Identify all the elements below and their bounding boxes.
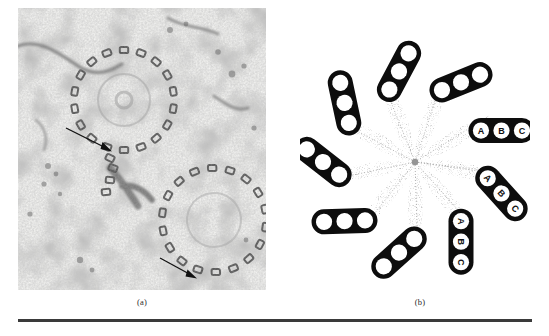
micrograph-grain-top <box>18 8 266 290</box>
triplet-top-left <box>372 40 425 106</box>
diagram-svg: A B C A B C A B C <box>300 40 530 290</box>
caption-panel-b: (b) <box>390 297 450 307</box>
tubule-label-a: A <box>478 126 485 136</box>
tubule-label-b: B <box>498 126 505 136</box>
triplet-right-middle: A B C <box>470 161 530 227</box>
panel-b-diagram: A B C A B C A B C <box>300 40 530 290</box>
figure-bottom-rule <box>18 319 532 322</box>
tubule-label-a: A <box>456 218 466 225</box>
micrograph-svg <box>18 8 266 290</box>
tubule-label-c: C <box>519 126 526 136</box>
caption-panel-a: (a) <box>112 297 172 307</box>
triplet-left-upper <box>325 68 363 138</box>
triplet-bottom-left <box>311 207 378 234</box>
triplet-right-lower: A B C <box>449 209 474 275</box>
tubule-label-b: B <box>456 238 466 245</box>
triplet-left-lower <box>300 132 357 192</box>
tubule-label-c: C <box>456 259 466 266</box>
panel-a-micrograph <box>18 8 266 290</box>
triplet-right-upper: A B C <box>468 118 530 143</box>
triplet-top-right <box>426 58 497 106</box>
triplet-bottom-right <box>366 221 432 284</box>
figure-container: A B C A B C A B C <box>0 0 549 336</box>
